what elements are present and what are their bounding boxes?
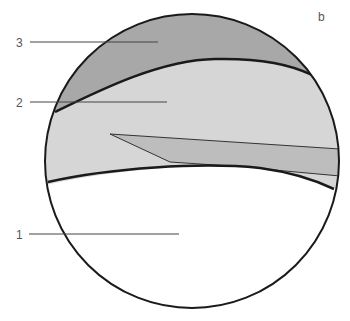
panel-label: b [318,10,325,24]
label-3: 3 [16,36,23,50]
cross-section-disc [40,10,350,320]
label-2: 2 [16,96,23,110]
layer-1-region [40,166,350,320]
diagram-canvas: 3 2 1 b [0,0,350,321]
label-1: 1 [16,228,23,242]
